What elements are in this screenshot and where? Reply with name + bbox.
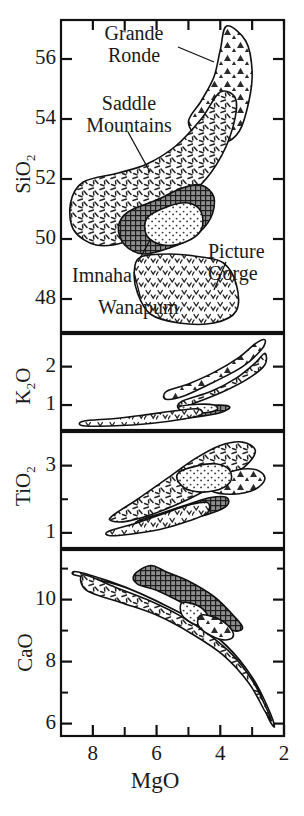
ytick-label-sio2-52: 52 [8, 165, 56, 190]
annotation-imnaha: Imnaha [72, 264, 160, 286]
panel-k2o [61, 334, 284, 430]
xtick-label-6: 6 [133, 741, 181, 766]
ytick-label-tio2-3: 3 [8, 452, 56, 477]
annotation-picture-gorge: PictureGorge [208, 240, 302, 285]
ytick-label-k2o-2: 2 [8, 353, 56, 378]
ytick-label-sio2-54: 54 [8, 105, 56, 130]
ytick-label-cao-8: 8 [8, 648, 56, 673]
ytick-label-cao-10: 10 [8, 586, 56, 611]
field-picture-gorge [79, 409, 202, 426]
xtick-label-8: 8 [69, 741, 117, 766]
xtick-label-4: 4 [196, 741, 244, 766]
ytick-label-tio2-1: 1 [8, 519, 56, 544]
leader-saddle-mountains [128, 132, 150, 172]
ytick-label-k2o-1: 1 [8, 391, 56, 416]
annotation-grande-ronde: GrandeRonde [82, 22, 186, 67]
ytick-label-sio2-56: 56 [8, 45, 56, 70]
field-saddle-mountains [178, 353, 267, 408]
xtick-label-2: 2 [260, 741, 304, 766]
xaxis-title: MgO [110, 768, 200, 794]
annotation-wanapum: Wanapum [98, 296, 210, 318]
ytick-label-sio2-48: 48 [8, 285, 56, 310]
annotation-saddle-mountains: SaddleMountains [68, 92, 190, 137]
panel-tio2 [61, 432, 284, 548]
panel-cao [61, 550, 284, 736]
ytick-label-cao-6: 6 [8, 710, 56, 735]
ytick-label-sio2-50: 50 [8, 225, 56, 250]
